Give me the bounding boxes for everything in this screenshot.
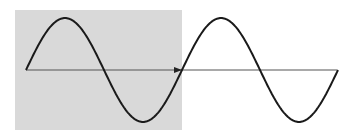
sine-wave-diagram (0, 0, 350, 137)
